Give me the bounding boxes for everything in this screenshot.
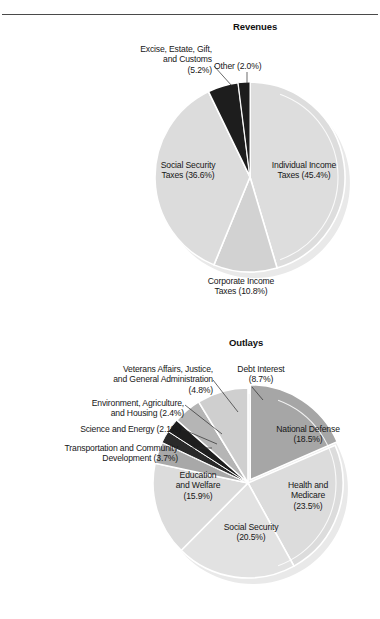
outlays-chart-block: Outlays [0, 310, 380, 619]
revenues-label-other: Other (2.0%) [214, 61, 306, 71]
revenues-label-excise: Excise, Estate, Gift, and Customs (5.2%) [100, 44, 212, 75]
outlays-label-education-and-welfare: Education and Welfare (15.9%) [155, 470, 241, 501]
outlays-label-health-and-medicare: Health and Medicare (23.5%) [268, 480, 348, 511]
page-root: Revenues Excise, Estate, Gift, and Custo… [0, 0, 380, 619]
outlays-label-environment-agriculture-housing: Environment, Agriculture, and Housing (2… [34, 398, 184, 419]
outlays-label-social-security: Social Security (20.5%) [196, 522, 306, 543]
outlays-label-national-defense: National Defense (18.5%) [254, 424, 362, 445]
outlays-label-science-and-energy: Science and Energy (2.1%) [24, 424, 181, 434]
outlays-label-transportation-community-development: Transportation and Community Development… [6, 443, 178, 464]
revenues-label-individual-income: Individual Income Taxes (45.4%) [254, 160, 354, 181]
outlays-pie-chart [0, 310, 380, 619]
outlays-label-debt-interest: Debt Interest (8.7%) [221, 364, 301, 385]
outlays-label-veterans-affairs: Veterans Affairs, Justice, and General A… [48, 364, 213, 395]
revenues-label-social-security: Social Security Taxes (36.6%) [142, 160, 234, 181]
revenues-label-corporate-income: Corporate Income Taxes (10.8%) [186, 276, 296, 297]
revenues-chart-block: Revenues Excise, Estate, Gift, and Custo… [0, 0, 380, 310]
